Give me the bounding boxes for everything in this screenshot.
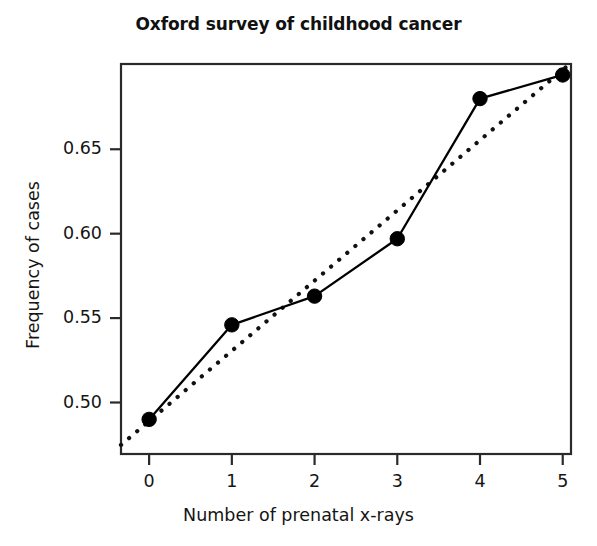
axis-ticks bbox=[110, 149, 563, 465]
plot-canvas bbox=[0, 0, 597, 546]
fitted-trend-line bbox=[121, 63, 571, 445]
plot-frame bbox=[121, 64, 571, 454]
chart-figure: Oxford survey of childhood cancer Freque… bbox=[0, 0, 597, 546]
